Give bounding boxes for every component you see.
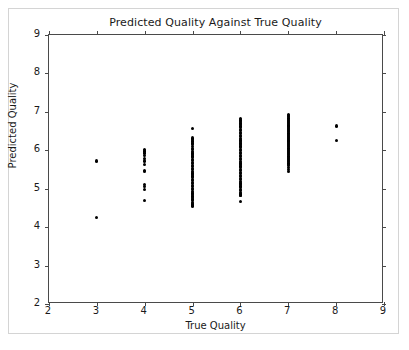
y-tick-mark-right <box>382 73 386 74</box>
y-tick-mark-right <box>382 150 386 151</box>
plot-axes <box>48 34 383 303</box>
scatter-point <box>143 163 146 166</box>
x-tick-label: 3 <box>85 305 107 316</box>
scatter-point <box>95 216 98 219</box>
x-tick-mark-top <box>145 31 146 35</box>
x-tick-label: 2 <box>37 305 59 316</box>
scatter-point <box>335 124 338 127</box>
x-tick-mark-top <box>336 31 337 35</box>
x-tick-label: 9 <box>372 305 394 316</box>
chart-title: Predicted Quality Against True Quality <box>48 16 383 29</box>
x-tick-label: 6 <box>228 305 250 316</box>
y-tick-label: 8 <box>22 65 40 79</box>
x-axis-label: True Quality <box>48 320 383 331</box>
scatter-point <box>191 127 194 130</box>
scatter-point <box>143 170 146 173</box>
scatter-point <box>239 200 242 203</box>
figure-canvas: Predicted Quality Against True Quality T… <box>0 0 409 350</box>
scatter-point <box>143 159 146 162</box>
y-tick-mark-right <box>382 35 386 36</box>
scatter-point <box>191 204 194 207</box>
scatter-plot-area <box>49 35 382 302</box>
x-tick-label: 7 <box>276 305 298 316</box>
y-tick-label: 9 <box>22 27 40 41</box>
scatter-point <box>95 159 98 162</box>
y-tick-mark <box>45 266 49 267</box>
x-tick-label: 8 <box>324 305 346 316</box>
x-tick-mark-top <box>240 31 241 35</box>
y-tick-mark-right <box>382 112 386 113</box>
y-tick-label: 7 <box>22 104 40 118</box>
y-tick-mark <box>45 35 49 36</box>
y-tick-mark-right <box>382 266 386 267</box>
x-tick-mark-top <box>49 31 50 35</box>
y-tick-mark-right <box>382 227 386 228</box>
scatter-point <box>287 170 290 173</box>
scatter-point <box>143 199 146 202</box>
y-tick-label: 5 <box>22 181 40 195</box>
y-axis-label: Predicted Quality <box>7 66 18 186</box>
y-tick-mark <box>45 73 49 74</box>
scatter-point <box>143 188 146 191</box>
scatter-point <box>335 139 338 142</box>
x-tick-mark-top <box>97 31 98 35</box>
y-tick-mark <box>45 227 49 228</box>
y-tick-label: 2 <box>22 296 40 310</box>
x-tick-mark-top <box>288 31 289 35</box>
y-tick-mark <box>45 112 49 113</box>
scatter-point <box>239 194 242 197</box>
y-tick-label: 6 <box>22 142 40 156</box>
y-tick-mark-right <box>382 189 386 190</box>
x-tick-label: 5 <box>181 305 203 316</box>
x-tick-mark-top <box>193 31 194 35</box>
y-tick-label: 3 <box>22 258 40 272</box>
y-tick-mark <box>45 189 49 190</box>
y-tick-label: 4 <box>22 219 40 233</box>
y-tick-mark <box>45 150 49 151</box>
x-tick-label: 4 <box>133 305 155 316</box>
